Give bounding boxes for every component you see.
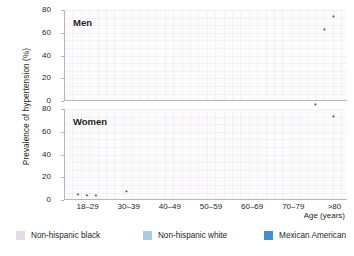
bar-men-2-2 [170, 77, 179, 101]
bar-men-5-0 [271, 25, 280, 101]
bar-group-men-0 [67, 10, 107, 101]
bar-men-1-1 [122, 87, 131, 101]
bar-men-0-0 [73, 94, 82, 101]
bar-men-6-0 [311, 30, 320, 101]
legend-item-2[interactable]: Mexican American [264, 231, 346, 240]
bar-men-5-1 [280, 33, 289, 101]
bar-men-1-2 [131, 91, 140, 101]
bar-group-men-3 [186, 10, 226, 101]
y-tick-label: 20 [42, 74, 51, 82]
x-tick-label-1: 30–39 [108, 202, 149, 211]
bar-men-6-2: * [329, 20, 338, 101]
x-tick-label-2: 40–49 [149, 202, 190, 211]
y-tick-mark [61, 78, 64, 79]
bar-men-1-0 [113, 89, 122, 102]
significance-asterisk: * [85, 194, 88, 199]
significance-asterisk: * [94, 194, 97, 199]
bar-women-0-2: * [91, 199, 100, 200]
bar-women-0-0: * [73, 198, 82, 200]
legend-label: Non-hispanic white [158, 231, 227, 240]
y-tick-mark [61, 109, 64, 110]
bar-group-women-4 [225, 109, 265, 200]
y-tick-mark [61, 10, 64, 11]
bar-women-2-2 [170, 188, 179, 201]
bar-women-4-0 [232, 112, 241, 200]
bar-group-men-2 [146, 10, 186, 101]
y-tick-label: 40 [42, 52, 51, 60]
bar-group-women-2 [146, 109, 186, 200]
bar-men-6-1: * [320, 33, 329, 101]
y-tick-mark [61, 56, 64, 57]
bar-women-1-1: * [122, 195, 131, 200]
y-tick-label: 40 [42, 151, 51, 159]
legend-label: Mexican American [279, 231, 346, 240]
bar-men-0-2 [91, 99, 100, 101]
x-tick-label-4: 60–69 [232, 202, 273, 211]
bar-women-0-1: * [82, 199, 91, 200]
bar-men-3-2 [210, 60, 219, 101]
bar-women-1-2 [131, 192, 140, 200]
x-axis-tick-labels: 18–2930–3940–4950–5960–6970–79>80 [64, 202, 354, 211]
bar-women-6-1 [320, 117, 329, 200]
bar-men-4-0 [232, 29, 241, 101]
y-tick-mark [61, 200, 64, 201]
bar-men-4-2 [250, 40, 259, 101]
y-tick-mark [61, 101, 64, 102]
legend-item-1[interactable]: Non-hispanic white [143, 231, 264, 240]
bar-women-6-0: * [311, 108, 320, 200]
bar-groups-women: ****** [64, 109, 347, 200]
bar-group-women-6: ** [304, 109, 344, 200]
y-tick-label: 60 [42, 29, 51, 37]
y-tick-label: 20 [42, 173, 51, 181]
bar-men-2-1 [161, 76, 170, 101]
bar-women-3-1 [201, 158, 210, 200]
legend-swatch-icon [16, 231, 25, 240]
bar-women-3-0 [192, 147, 201, 200]
panel-men: Men ** 020406080 [53, 10, 347, 101]
y-tick-label: 60 [42, 128, 51, 136]
chart-legend: Non-hispanic blackNon-hispanic whiteMexi… [16, 231, 346, 240]
legend-item-0[interactable]: Non-hispanic black [16, 231, 143, 240]
x-tick-label-5: 70–79 [273, 202, 314, 211]
legend-swatch-icon [143, 231, 152, 240]
y-tick-mark [61, 177, 64, 178]
significance-asterisk: * [125, 190, 128, 195]
bar-men-0-1 [82, 98, 91, 101]
bar-women-3-2 [210, 161, 219, 200]
y-tick-label: 80 [42, 105, 51, 113]
bar-women-2-0 [152, 166, 161, 200]
x-axis-title: Age (years) [304, 211, 345, 220]
bar-group-men-4 [225, 10, 265, 101]
bar-groups-men: ** [64, 10, 347, 101]
bar-women-5-2 [289, 125, 298, 200]
significance-asterisk: * [314, 103, 317, 108]
panel-women: Women ****** 020406080 [53, 109, 347, 200]
y-tick-mark [61, 33, 64, 34]
y-tick-label: 0 [47, 196, 51, 204]
x-tick-label-6: >80 [314, 202, 354, 211]
bar-women-4-2 [250, 133, 259, 200]
bar-women-5-1 [280, 126, 289, 200]
bar-group-women-1: * [107, 109, 147, 200]
bar-group-women-0: *** [67, 109, 107, 200]
bar-men-4-1 [241, 44, 250, 101]
bar-women-1-0 [113, 188, 122, 201]
bar-men-3-0 [192, 38, 201, 101]
bar-women-2-1 [161, 185, 170, 200]
bar-group-men-5 [265, 10, 305, 101]
bar-men-3-1 [201, 54, 210, 101]
significance-asterisk: * [323, 28, 326, 33]
significance-asterisk: * [332, 15, 335, 20]
y-tick-label: 80 [42, 6, 51, 14]
x-tick-label-3: 50–59 [190, 202, 231, 211]
bar-men-2-0 [152, 60, 161, 101]
significance-asterisk: * [76, 193, 79, 198]
y-tick-mark [61, 132, 64, 133]
bar-women-6-2: * [329, 120, 338, 200]
legend-swatch-icon [264, 231, 273, 240]
bar-women-4-1 [241, 142, 250, 200]
hypertension-prevalence-chart: Prevalence of hypertension (%) Men ** 02… [0, 0, 354, 256]
legend-label: Non-hispanic black [31, 231, 100, 240]
significance-asterisk: * [332, 115, 335, 120]
bar-group-women-3 [186, 109, 226, 200]
